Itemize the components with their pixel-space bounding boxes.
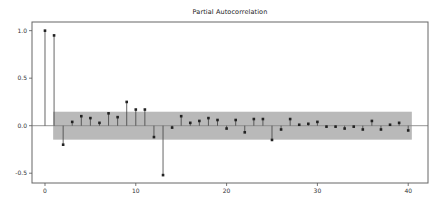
x-tick-label: 40 — [404, 187, 412, 194]
data-point-marker — [153, 136, 156, 139]
data-point-marker — [162, 174, 165, 177]
y-tick-label: 0.5 — [17, 74, 27, 81]
pacf-figure: Partial Autocorrelation 0102030401.00.50… — [0, 0, 441, 201]
data-point-marker — [125, 101, 128, 104]
data-point-marker — [53, 34, 56, 37]
x-tick-label: 0 — [43, 187, 47, 194]
data-point-marker — [389, 123, 392, 126]
data-point-marker — [334, 125, 337, 128]
data-point-marker — [180, 115, 183, 118]
data-point-marker — [116, 116, 119, 119]
data-point-marker — [44, 29, 47, 32]
pacf-plot-canvas: 0102030401.00.50.0-0.5 — [0, 0, 441, 201]
x-tick-label: 20 — [223, 187, 231, 194]
plot-spines — [32, 22, 428, 183]
data-point-marker — [198, 120, 201, 123]
data-point-marker — [253, 118, 256, 121]
data-point-marker — [362, 128, 365, 131]
data-point-marker — [107, 112, 110, 115]
data-point-marker — [289, 118, 292, 121]
data-point-marker — [380, 128, 383, 131]
data-point-marker — [71, 121, 74, 124]
y-tick-label: 1.0 — [17, 27, 27, 34]
data-point-marker — [325, 125, 328, 128]
data-point-marker — [407, 129, 410, 132]
data-point-marker — [189, 122, 192, 125]
data-point-marker — [352, 125, 355, 128]
data-point-marker — [62, 143, 65, 146]
data-point-marker — [280, 128, 283, 131]
data-point-marker — [98, 122, 101, 125]
data-point-marker — [371, 120, 374, 123]
data-point-marker — [216, 119, 219, 122]
data-point-marker — [225, 127, 228, 130]
y-tick-label: -0.5 — [15, 169, 27, 176]
x-tick-label: 30 — [314, 187, 322, 194]
data-point-marker — [171, 126, 174, 129]
data-point-marker — [89, 117, 92, 120]
data-point-marker — [316, 121, 319, 124]
data-point-marker — [243, 131, 246, 134]
data-point-marker — [298, 123, 301, 126]
data-point-marker — [262, 118, 265, 121]
x-tick-label: 10 — [132, 187, 140, 194]
data-point-marker — [207, 117, 210, 120]
data-point-marker — [398, 122, 401, 125]
data-point-marker — [234, 119, 237, 122]
data-point-marker — [144, 108, 147, 111]
data-point-marker — [80, 115, 83, 118]
data-point-marker — [271, 139, 274, 142]
data-point-marker — [343, 127, 346, 130]
data-point-marker — [134, 108, 137, 111]
y-tick-label: 0.0 — [17, 122, 27, 129]
data-point-marker — [307, 122, 310, 125]
